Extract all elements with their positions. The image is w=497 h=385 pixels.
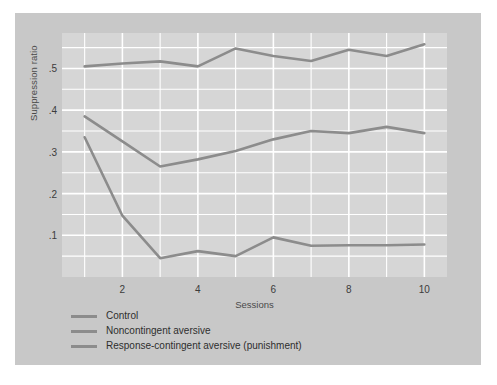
y-tick-label: .3 <box>49 146 57 157</box>
legend-swatch-icon <box>71 330 97 333</box>
chart-legend: ControlNoncontingent aversiveResponse-co… <box>71 309 302 354</box>
gridlines <box>62 33 447 277</box>
x-tick-label: 8 <box>346 284 352 295</box>
legend-item: Noncontingent aversive <box>71 324 302 338</box>
y-tick-label: .5 <box>49 63 57 74</box>
legend-label: Noncontingent aversive <box>106 326 211 336</box>
x-tick-label: 10 <box>419 284 430 295</box>
line-chart-svg <box>62 33 447 277</box>
plot-area <box>62 33 447 277</box>
x-tick-label: 2 <box>120 284 126 295</box>
figure-panel: .5.4.3.2.1 246810 Suppression ratio Sess… <box>15 13 481 365</box>
y-tick-label: .1 <box>49 230 57 241</box>
legend-swatch-icon <box>71 315 97 318</box>
x-tick-label: 4 <box>195 284 201 295</box>
legend-label: Response-contingent aversive (punishment… <box>106 341 302 351</box>
legend-label: Control <box>106 311 138 321</box>
plot-wrapper: .5.4.3.2.1 246810 Suppression ratio Sess… <box>62 33 447 277</box>
x-tick-label: 6 <box>271 284 277 295</box>
series-line-2 <box>85 116 425 166</box>
legend-swatch-icon <box>71 345 97 348</box>
y-tick-label: .4 <box>49 105 57 116</box>
legend-item: Response-contingent aversive (punishment… <box>71 339 302 353</box>
y-tick-label: .2 <box>49 188 57 199</box>
legend-item: Control <box>71 309 302 323</box>
series-line-3 <box>85 137 425 258</box>
y-axis-title: Suppression ratio <box>28 45 39 121</box>
